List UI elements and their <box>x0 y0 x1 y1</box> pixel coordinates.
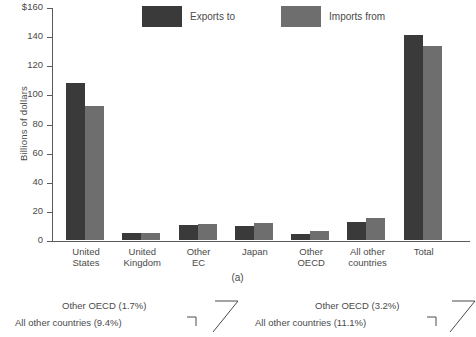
y-axis-tick-label: 0 <box>38 234 43 245</box>
y-axis-line <box>52 8 53 242</box>
bar-exports <box>179 225 198 240</box>
callout-left-other-oecd: Other OECD (1.7%) <box>62 300 146 311</box>
bar-imports <box>310 231 329 240</box>
bar-imports <box>85 106 104 240</box>
y-axis-title: Billions of dollars <box>18 49 29 199</box>
legend-label-imports: Imports from <box>329 11 385 22</box>
bar-exports <box>235 226 254 240</box>
callout-right-other-oecd: Other OECD (3.2%) <box>315 300 399 311</box>
y-axis-tick: 120 <box>47 66 52 67</box>
chart-legend: Exports to Imports from <box>142 6 385 27</box>
y-axis-tick-label: 40 <box>32 176 43 187</box>
bar-imports <box>254 223 273 240</box>
x-axis-line <box>52 241 470 242</box>
bar-group <box>291 7 331 240</box>
y-axis-tick-label: 60 <box>32 147 43 158</box>
pie-callouts-figure: Other OECD (1.7%) All other countries (9… <box>0 295 475 337</box>
figure-a-caption: (a) <box>0 272 475 283</box>
legend-item-imports: Imports from <box>281 6 385 27</box>
y-axis-tick-label: $160 <box>22 1 43 12</box>
y-axis-tick-label: 20 <box>32 205 43 216</box>
bar-imports <box>141 233 160 240</box>
bar-group <box>122 7 162 240</box>
legend-item-exports: Exports to <box>142 6 235 27</box>
leader-line-right-small-icon <box>427 317 437 327</box>
leader-line-left-small-icon <box>187 317 197 327</box>
legend-swatch-imports-icon <box>281 6 321 27</box>
leader-line-right-large-icon <box>450 301 476 333</box>
bar-group <box>66 7 106 240</box>
callout-left-all-other-countries: All other countries (9.4%) <box>15 317 122 328</box>
bar-exports <box>122 233 141 240</box>
bar-exports <box>66 83 85 240</box>
plot-area: $160140120100806040200 UnitedStatesUnite… <box>52 8 470 241</box>
bar-group <box>179 7 219 240</box>
y-axis-tick-label: 140 <box>27 30 43 41</box>
x-axis-category-label: Total <box>387 246 461 257</box>
bar-imports <box>366 218 385 240</box>
y-axis-tick-label: 100 <box>27 88 43 99</box>
bar-group <box>347 7 387 240</box>
bar-group <box>235 7 275 240</box>
bar-exports <box>347 222 366 240</box>
y-axis-tick: 80 <box>47 125 52 126</box>
y-axis-tick: 20 <box>47 212 52 213</box>
y-axis-tick: $160 <box>47 8 52 9</box>
y-axis-tick: 0 <box>47 241 52 242</box>
bar-imports <box>198 224 217 240</box>
y-axis-tick: 100 <box>47 95 52 96</box>
bar-chart-figure: Billions of dollars $1601401201008060402… <box>0 0 475 295</box>
y-axis-tick-label: 120 <box>27 59 43 70</box>
y-axis-tick: 40 <box>47 183 52 184</box>
callout-right-all-other-countries: All other countries (11.1%) <box>255 317 366 328</box>
legend-swatch-exports-icon <box>142 6 182 27</box>
y-axis-tick-label: 80 <box>32 118 43 129</box>
y-axis-tick: 60 <box>47 154 52 155</box>
bar-exports <box>291 234 310 240</box>
y-axis-tick: 140 <box>47 37 52 38</box>
leader-line-left-large-icon <box>213 301 239 333</box>
legend-label-exports: Exports to <box>190 11 235 22</box>
bar-exports <box>404 35 423 240</box>
bar-group <box>404 7 444 240</box>
bar-imports <box>423 46 442 240</box>
